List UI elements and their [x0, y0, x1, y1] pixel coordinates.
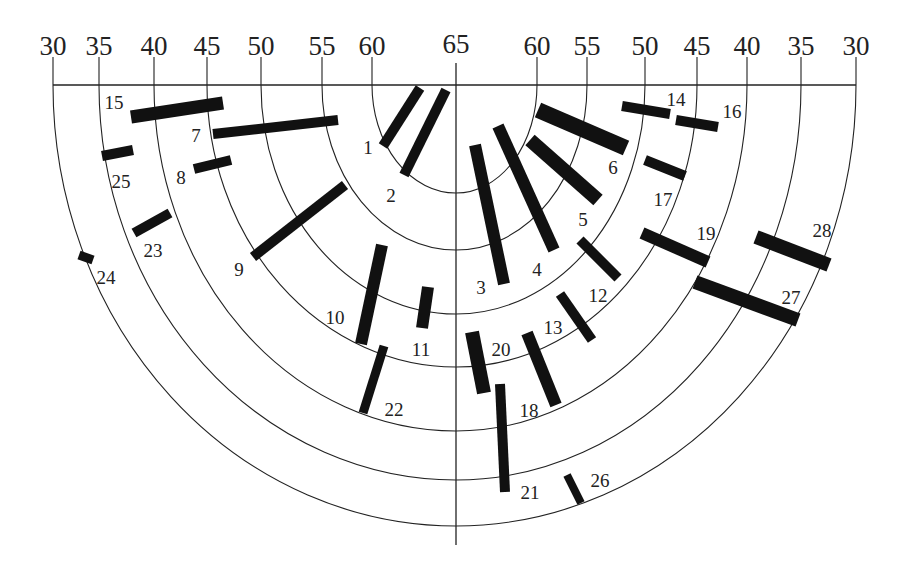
bar-25 — [102, 150, 133, 156]
bar-label-6: 6 — [608, 157, 618, 178]
bar-label-1: 1 — [363, 137, 373, 158]
bar-label-3: 3 — [476, 277, 486, 298]
bar-label-2: 2 — [386, 185, 396, 206]
scale-label-center: 65 — [443, 29, 470, 59]
bar-label-25: 25 — [112, 171, 131, 192]
bar-label-19: 19 — [697, 223, 716, 244]
bar-label-21: 21 — [521, 482, 540, 503]
bar-8 — [194, 160, 231, 169]
bar-label-12: 12 — [589, 285, 608, 306]
scale-label-right-40: 40 — [734, 31, 761, 61]
bar-label-23: 23 — [144, 240, 163, 261]
scale-label-left-35: 35 — [86, 31, 113, 61]
bar-16 — [676, 120, 718, 127]
bar-3 — [475, 145, 504, 284]
scale-label-right-50: 50 — [632, 31, 659, 61]
scale-label-left-60: 60 — [359, 31, 386, 61]
bars — [79, 88, 829, 503]
scale-label-right-30: 30 — [843, 31, 870, 61]
bar-label-27: 27 — [782, 287, 801, 308]
scale-labels: 303540455055606055504540353065 — [40, 29, 870, 61]
bar-12 — [580, 240, 618, 278]
bar-label-5: 5 — [578, 209, 588, 230]
bar-14 — [622, 106, 670, 114]
bar-label-17: 17 — [654, 189, 673, 210]
bar-label-26: 26 — [591, 470, 610, 491]
scale-label-right-45: 45 — [684, 31, 711, 61]
bar-label-7: 7 — [191, 125, 201, 146]
scale-label-right-55: 55 — [574, 31, 601, 61]
scale-label-right-60: 60 — [524, 31, 551, 61]
bar-label-15: 15 — [105, 92, 124, 113]
bar-label-18: 18 — [520, 400, 539, 421]
bar-1 — [383, 88, 420, 146]
bar-label-11: 11 — [412, 339, 430, 360]
scale-label-right-35: 35 — [788, 31, 815, 61]
bar-11 — [422, 287, 428, 328]
bar-label-24: 24 — [97, 267, 117, 288]
bar-label-16: 16 — [723, 101, 742, 122]
bar-label-8: 8 — [176, 167, 186, 188]
bar-20 — [472, 332, 484, 393]
bar-label-14: 14 — [667, 89, 687, 110]
bar-6 — [538, 110, 626, 148]
semicircular-ring-diagram: 303540455055606055504540353065 123456789… — [0, 0, 902, 568]
bar-label-4: 4 — [532, 259, 542, 280]
bar-22 — [363, 346, 384, 413]
scale-label-left-45: 45 — [194, 31, 221, 61]
bar-9 — [253, 185, 345, 257]
bar-5 — [530, 140, 598, 200]
scale-label-left-55: 55 — [309, 31, 336, 61]
bar-label-10: 10 — [326, 307, 345, 328]
scale-label-left-30: 30 — [40, 31, 67, 61]
bar-15 — [131, 103, 223, 117]
bar-13 — [560, 294, 592, 340]
bar-26 — [567, 475, 581, 503]
bar-label-22: 22 — [385, 399, 404, 420]
scale-label-left-40: 40 — [141, 31, 168, 61]
bar-23 — [134, 213, 170, 233]
bar-7 — [213, 120, 338, 134]
bar-label-20: 20 — [492, 339, 511, 360]
bar-label-13: 13 — [544, 317, 563, 338]
bar-24 — [79, 255, 93, 260]
bar-label-9: 9 — [234, 259, 244, 280]
bar-28 — [756, 237, 829, 265]
bar-17 — [645, 160, 685, 176]
bar-21 — [500, 384, 505, 492]
scale-label-left-50: 50 — [248, 31, 275, 61]
bar-label-28: 28 — [813, 220, 832, 241]
bar-10 — [361, 245, 382, 344]
